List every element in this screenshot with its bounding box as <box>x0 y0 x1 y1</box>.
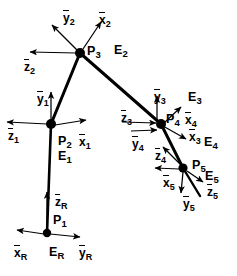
axis-label-y1-subscript: 1 <box>44 98 49 108</box>
frame-label-E5-subscript: 5 <box>213 174 218 185</box>
point-label-P2-subscript: 2 <box>66 139 71 150</box>
y2-arrow <box>52 25 77 50</box>
axis-label-y1: y1 <box>37 93 48 105</box>
point-label-P4-subscript: 4 <box>174 117 179 128</box>
axis-label-y4: y4 <box>132 138 143 150</box>
point-label-P1-subscript: 1 <box>61 218 66 229</box>
frame-label-E1-base: E <box>58 149 66 163</box>
point-label-P2-base: P <box>58 134 66 148</box>
frame-label-E5: E5 <box>205 170 218 183</box>
axis-label-y2: y2 <box>63 12 74 24</box>
axis-label-yR: yR <box>79 247 92 259</box>
axis-label-x2: x2 <box>99 14 110 26</box>
axis-label-xR: xR <box>14 247 27 259</box>
axis-label-x1: x1 <box>79 136 90 148</box>
axis-label-x3: x3 <box>189 131 200 143</box>
point-label-P1-base: P <box>53 213 61 227</box>
xR-arrow <box>17 230 44 234</box>
axis-label-x2-subscript: 2 <box>106 19 111 29</box>
axis-label-zR-subscript: R <box>61 201 67 211</box>
frame-label-ER-base: E <box>49 245 57 259</box>
axis-label-z4: z4 <box>155 150 166 162</box>
axis-label-y2-subscript: 2 <box>70 17 75 27</box>
point-label-P4-base: P <box>166 112 174 126</box>
point-label-P4: P4 <box>166 113 179 126</box>
joint-node-P2 <box>46 119 56 129</box>
frame-label-E2: E2 <box>114 44 127 57</box>
y4-arrow <box>131 130 157 131</box>
frame-label-E1: E1 <box>58 150 71 163</box>
frame-label-E4-subscript: 4 <box>212 140 217 151</box>
axis-label-y3-base: y <box>154 91 160 103</box>
axis-label-z5-base: z <box>207 186 213 198</box>
frame-label-E2-base: E <box>114 43 122 57</box>
axis-label-x1-subscript: 1 <box>86 141 91 151</box>
axis-label-z3-base: z <box>121 112 127 124</box>
axis-label-zR: zR <box>55 196 67 208</box>
axis-label-y1-base: y <box>37 93 43 105</box>
frame-label-E3-subscript: 3 <box>196 95 201 106</box>
axis-label-yR-subscript: R <box>86 252 92 262</box>
figure-canvas <box>0 0 237 276</box>
link-P2-P3 <box>51 53 80 124</box>
frame-label-E3-base: E <box>188 90 196 104</box>
axis-label-z3-subscript: 3 <box>127 117 132 127</box>
axis-label-yR-base: y <box>79 247 85 259</box>
link-P5-tip <box>183 168 200 196</box>
axis-label-x2-base: x <box>99 14 105 26</box>
point-label-P3-subscript: 3 <box>95 49 100 60</box>
z1-arrow <box>7 122 47 124</box>
frame-label-E3: E3 <box>188 91 201 104</box>
frame-label-ER: ER <box>49 246 64 259</box>
axis-arrow-group <box>7 22 203 237</box>
axis-label-x5-subscript: 5 <box>170 182 175 192</box>
axis-label-z2-base: z <box>24 61 30 73</box>
axis-label-x3-base: x <box>189 131 195 143</box>
yR-arrow <box>50 234 80 237</box>
frame-label-ER-subscript: R <box>57 250 64 261</box>
axis-label-xR-base: x <box>14 247 20 259</box>
z2-arrow <box>30 52 76 53</box>
joint-node-P4 <box>156 119 166 129</box>
axis-label-z3: z3 <box>121 112 132 124</box>
axis-label-z1: z1 <box>8 130 19 142</box>
point-label-P5-base: P <box>192 158 200 172</box>
axis-label-x4-base: x <box>185 114 191 126</box>
axis-label-x5-base: x <box>163 177 169 189</box>
axis-label-z1-subscript: 1 <box>14 135 19 145</box>
frame-label-E5-base: E <box>205 169 213 183</box>
axis-label-y3: y3 <box>154 91 165 103</box>
point-label-P1: P1 <box>53 214 66 227</box>
frame-label-E2-subscript: 2 <box>122 48 127 59</box>
axis-label-x4: x4 <box>185 114 196 126</box>
x1-arrow <box>55 120 86 125</box>
joint-node-P3 <box>75 48 85 58</box>
x5-arrow <box>155 168 179 169</box>
axis-label-y4-subscript: 4 <box>139 143 144 153</box>
axis-label-x4-subscript: 4 <box>192 119 197 129</box>
frame-label-E1-subscript: 1 <box>66 154 71 165</box>
axis-label-x1-base: x <box>79 136 85 148</box>
axis-label-y5-base: y <box>183 198 189 210</box>
axis-label-z4-base: z <box>155 150 161 162</box>
kinematic-chain-figure: P1P2P3P4P5ERE1E2E3E4E5xRyRzRz1y1x1z2y2x2… <box>0 0 237 276</box>
axis-label-y2-base: y <box>63 12 69 24</box>
axis-label-z5: z5 <box>207 186 218 198</box>
axis-label-y5: y5 <box>183 198 194 210</box>
point-label-P2: P2 <box>58 135 71 148</box>
frame-label-E4-base: E <box>204 135 212 149</box>
point-label-P3-base: P <box>87 44 95 58</box>
axis-label-xR-subscript: R <box>21 252 27 262</box>
axis-label-y5-subscript: 5 <box>190 203 195 213</box>
axis-label-zR-base: z <box>55 196 61 208</box>
joint-node-P5 <box>178 163 187 172</box>
joint-node-P1 <box>43 229 51 237</box>
axis-label-z4-subscript: 4 <box>161 155 166 165</box>
axis-label-z2-subscript: 2 <box>30 66 35 76</box>
frame-label-E4: E4 <box>204 136 217 149</box>
axis-label-x3-subscript: 3 <box>196 136 201 146</box>
axis-label-z2: z2 <box>24 61 35 73</box>
axis-label-x5: x5 <box>163 177 174 189</box>
axis-label-z5-subscript: 5 <box>213 191 218 201</box>
point-label-P5: P5 <box>192 159 205 172</box>
